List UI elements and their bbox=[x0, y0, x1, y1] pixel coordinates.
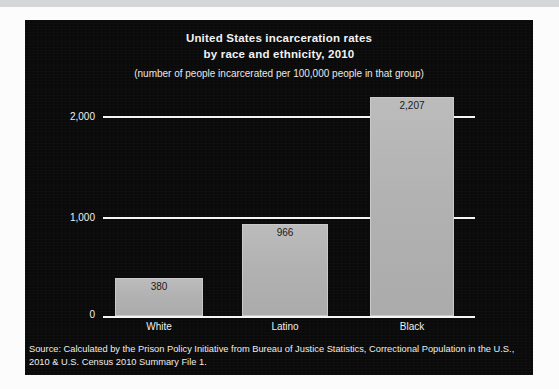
bar-value-black: 2,207 bbox=[370, 100, 454, 111]
chart-source-note: Source: Calculated by the Prison Policy … bbox=[29, 343, 529, 369]
bar-value-white: 380 bbox=[115, 281, 203, 292]
page-top-band bbox=[0, 0, 559, 7]
category-label-black: Black bbox=[370, 321, 454, 332]
ytick-label-1000: 1,000 bbox=[29, 212, 95, 223]
chart-title-block: United States incarceration rates by rac… bbox=[25, 30, 533, 82]
chart-title-line2: by race and ethnicity, 2010 bbox=[25, 46, 533, 62]
category-label-white: White bbox=[115, 321, 203, 332]
page-canvas: United States incarceration rates by rac… bbox=[0, 0, 559, 389]
axis-baseline-0 bbox=[103, 316, 475, 318]
chart-panel: United States incarceration rates by rac… bbox=[25, 20, 533, 375]
chart-title-line1: United States incarceration rates bbox=[25, 30, 533, 46]
bar-value-latino: 966 bbox=[242, 227, 328, 238]
category-label-latino: Latino bbox=[242, 321, 328, 332]
bar-black bbox=[370, 97, 454, 316]
ytick-label-2000: 2,000 bbox=[29, 111, 95, 122]
page-body: United States incarceration rates by rac… bbox=[0, 7, 559, 389]
ytick-label-0: 0 bbox=[29, 309, 95, 320]
chart-subtitle: (number of people incarcerated per 100,0… bbox=[25, 66, 533, 82]
